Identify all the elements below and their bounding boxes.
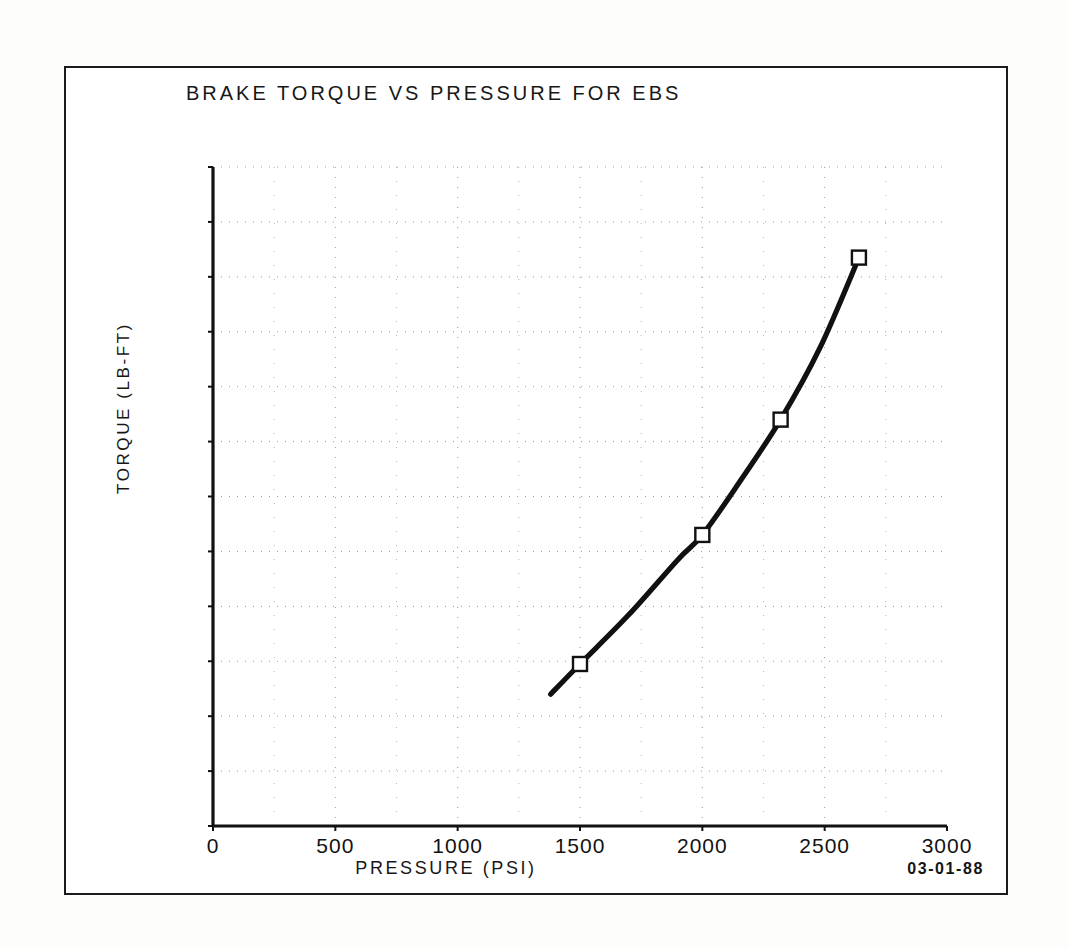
chart-title: BRAKE TORQUE VS PRESSURE FOR EBS: [186, 82, 681, 105]
x-axis-tick-label: 1000: [432, 834, 483, 858]
axis-ticks: [208, 167, 947, 831]
date-stamp: 03-01-88: [907, 860, 984, 878]
data-point-marker: [573, 657, 587, 671]
x-axis-tick-label: 2500: [799, 834, 850, 858]
data-markers: [573, 251, 866, 671]
data-curve: [551, 258, 859, 695]
chart-frame: BRAKE TORQUE VS PRESSURE FOR EBS TORQUE …: [64, 66, 1008, 895]
x-axis-tick-label: 0: [207, 834, 220, 858]
data-point-marker: [852, 251, 866, 265]
scanned-page: BRAKE TORQUE VS PRESSURE FOR EBS TORQUE …: [0, 0, 1069, 949]
x-axis-title: PRESSURE (PSI): [66, 858, 826, 879]
y-axis-title: TORQUE (LB-FT): [114, 298, 134, 518]
x-axis-tick-label: 2000: [677, 834, 728, 858]
x-axis-tick-label: 3000: [922, 834, 973, 858]
x-axis-tick-label: 1500: [555, 834, 606, 858]
data-point-marker: [774, 413, 788, 427]
plot-area: [213, 167, 947, 826]
gridlines: [213, 167, 947, 826]
x-axis-tick-label: 500: [316, 834, 354, 858]
plot-canvas: [213, 167, 947, 826]
data-point-marker: [695, 528, 709, 542]
